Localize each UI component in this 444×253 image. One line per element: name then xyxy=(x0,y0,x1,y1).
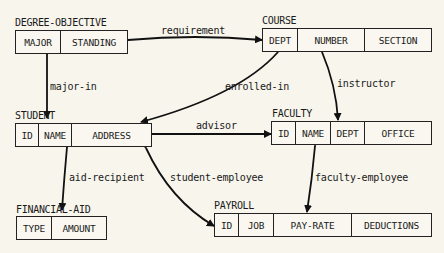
faculty-employee-arrow xyxy=(307,146,315,212)
faculty-dept: DEPT xyxy=(331,122,365,144)
instructor-label: instructor xyxy=(337,78,395,90)
aid-recipient-arrow xyxy=(62,147,67,210)
payroll-id: ID xyxy=(215,214,239,236)
payroll-deductions: DEDUCTIONS xyxy=(352,214,431,236)
financial-aid-type: TYPE xyxy=(17,217,52,239)
course-entity[interactable]: DEPT NUMBER SECTION xyxy=(262,28,432,52)
faculty-name: NAME xyxy=(296,122,331,144)
faculty-id: ID xyxy=(272,122,296,144)
student-address: ADDRESS xyxy=(72,124,151,146)
payroll-entity[interactable]: ID JOB PAY-RATE DEDUCTIONS xyxy=(214,213,432,237)
enrolled-in-label: enrolled-in xyxy=(225,81,289,93)
degree-objective-entity[interactable]: MAJOR STANDING xyxy=(15,30,128,54)
student-entity[interactable]: ID NAME ADDRESS xyxy=(15,123,152,147)
student-title: STUDENT xyxy=(15,110,55,122)
payroll-title: PAYROLL xyxy=(214,200,254,212)
payroll-pay-rate: PAY-RATE xyxy=(274,214,352,236)
requirement-arrow xyxy=(128,37,262,40)
faculty-office: OFFICE xyxy=(365,122,431,144)
student-employee-label: student-employee xyxy=(170,172,263,184)
financial-aid-amount: AMOUNT xyxy=(52,217,106,239)
course-dept: DEPT xyxy=(263,29,298,51)
faculty-entity[interactable]: ID NAME DEPT OFFICE xyxy=(271,121,432,145)
degree-objective-standing: STANDING xyxy=(61,31,127,53)
aid-recipient-label: aid-recipient xyxy=(69,172,145,184)
degree-objective-major: MAJOR xyxy=(16,31,61,53)
payroll-job: JOB xyxy=(239,214,274,236)
course-title: COURSE xyxy=(262,15,296,27)
financial-aid-title: FINANCIAL-AID xyxy=(16,204,90,216)
financial-aid-entity[interactable]: TYPE AMOUNT xyxy=(16,216,107,240)
faculty-employee-label: faculty-employee xyxy=(315,172,408,184)
faculty-title: FACULTY xyxy=(272,108,312,120)
course-number: NUMBER xyxy=(298,29,365,51)
course-section: SECTION xyxy=(365,29,431,51)
student-name: NAME xyxy=(39,124,72,146)
degree-objective-title: DEGREE-OBJECTIVE xyxy=(15,17,107,29)
student-id: ID xyxy=(16,124,39,146)
major-in-label: major-in xyxy=(50,81,97,93)
instructor-arrow xyxy=(322,52,338,120)
advisor-label: advisor xyxy=(196,120,237,132)
requirement-label: requirement xyxy=(161,25,225,37)
student-employee-arrow xyxy=(146,148,214,226)
